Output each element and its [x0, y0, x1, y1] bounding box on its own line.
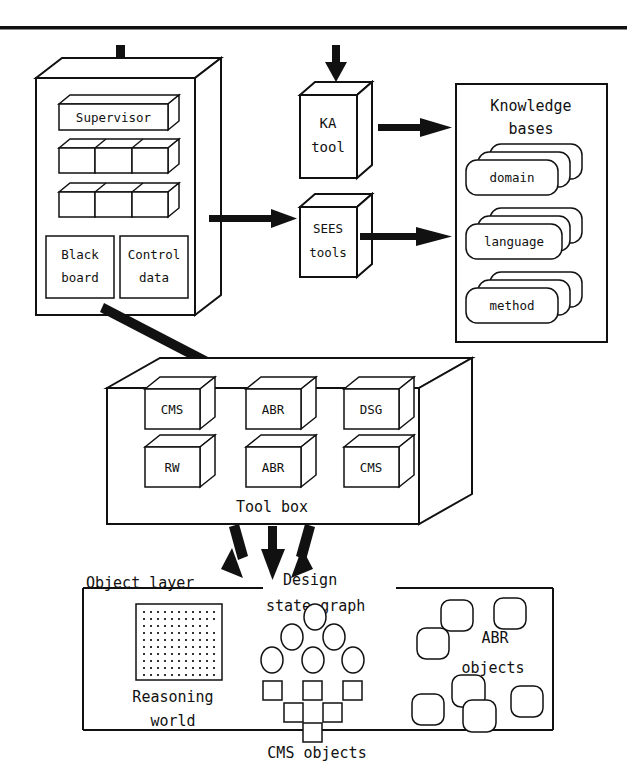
dsg-node-square — [343, 681, 362, 700]
kb-label-domain: domain — [489, 170, 534, 185]
tool-box[interactable]: CMS ABR DSG RW ABR — [107, 358, 472, 524]
supervisor-block[interactable]: Supervisor — [59, 95, 179, 130]
reasoning-world-label-line1: Reasoning — [132, 688, 213, 706]
ks-row-2[interactable] — [59, 183, 179, 217]
arrow-ka-tool-to-knowledge-bases — [378, 118, 452, 137]
dsg-node-ellipse — [281, 624, 303, 650]
control-data-label-line1: Control — [128, 247, 181, 262]
object-layer-panel[interactable]: Reasoning world — [83, 588, 553, 742]
top-divider-rule — [0, 26, 627, 30]
ka-tool-label-line2: tool — [311, 139, 345, 155]
reasoning-world-label-line2: world — [150, 712, 195, 730]
arrow-tool-box-to-object-layer-left — [221, 524, 248, 578]
control-data-panel[interactable]: Control data — [120, 236, 188, 298]
kb-label-language: language — [484, 234, 544, 249]
tool-cube-abr-1[interactable]: ABR — [246, 377, 316, 429]
dsg-node-square — [303, 723, 322, 742]
knowledge-bases-panel[interactable]: Knowledge bases domain language method — [456, 84, 607, 342]
arrow-blackboard-to-sees-tools — [209, 209, 297, 228]
dsg-node-square — [303, 681, 322, 700]
sees-tools-label-line2: tools — [309, 245, 347, 260]
black-board-label-line1: Black — [61, 247, 99, 262]
tool-cube-label: ABR — [262, 460, 285, 475]
abr-object-node — [412, 694, 444, 725]
tool-box-caption: Tool box — [236, 498, 308, 516]
design-state-graph[interactable] — [261, 604, 364, 742]
abr-object-node — [463, 700, 496, 732]
tool-cube-label: CMS — [161, 402, 184, 417]
dsg-node-ellipse — [323, 624, 345, 650]
blackboard-system[interactable]: Supervisor Black board — [36, 58, 221, 315]
arrow-sees-tools-to-knowledge-bases — [360, 227, 452, 246]
supervisor-label: Supervisor — [76, 110, 152, 125]
abr-object-node — [494, 598, 526, 629]
abr-objects-label-line1: ABR — [481, 629, 509, 647]
dsg-node-ellipse — [304, 604, 326, 630]
knowledge-bases-title-line1: Knowledge — [490, 97, 571, 115]
kb-label-method: method — [489, 298, 534, 313]
ka-tool-cube[interactable]: KA tool — [300, 82, 372, 178]
abr-object-node — [511, 686, 543, 717]
ka-tool-label-line1: KA — [320, 115, 337, 131]
abr-objects-group[interactable]: ABR objects — [412, 598, 543, 732]
knowledge-bases-title-line2: bases — [508, 120, 553, 138]
arrow-input-to-ka-tool — [325, 45, 347, 82]
design-state-graph-label-line1: Design — [283, 571, 337, 589]
abr-objects-label-line2: objects — [461, 659, 524, 677]
cms-objects-caption: CMS objects — [267, 744, 366, 762]
black-board-panel[interactable]: Black board — [46, 236, 114, 298]
tool-cube-label: DSG — [360, 402, 383, 417]
dsg-node-ellipse — [342, 647, 364, 673]
black-board-label-line2: board — [61, 270, 99, 285]
reasoning-world-group[interactable]: Reasoning world — [132, 604, 222, 730]
tool-cube-dsg[interactable]: DSG — [344, 377, 414, 429]
abr-object-node — [417, 628, 449, 659]
diagram-canvas: Supervisor Black board — [0, 0, 627, 783]
tool-cube-cms-1[interactable]: CMS — [145, 377, 215, 429]
sees-tools-label-line1: SEES — [313, 221, 343, 236]
arrow-tool-box-to-object-layer-center — [261, 526, 285, 580]
dsg-node-square — [323, 703, 342, 722]
tool-cube-cms-2[interactable]: CMS — [344, 435, 414, 487]
architecture-diagram: Supervisor Black board — [0, 0, 627, 783]
tool-cube-label: ABR — [262, 402, 285, 417]
tool-cube-rw[interactable]: RW — [145, 435, 215, 487]
tool-cube-label: CMS — [360, 460, 383, 475]
control-data-label-line2: data — [139, 270, 169, 285]
dsg-node-square — [284, 703, 303, 722]
tool-cube-abr-2[interactable]: ABR — [246, 435, 316, 487]
dsg-node-square — [263, 681, 282, 700]
dsg-node-ellipse — [261, 647, 283, 673]
abr-object-node — [441, 600, 473, 631]
dsg-node-ellipse — [302, 647, 324, 673]
ks-row-1[interactable] — [59, 139, 179, 173]
tool-cube-label: RW — [164, 460, 180, 475]
